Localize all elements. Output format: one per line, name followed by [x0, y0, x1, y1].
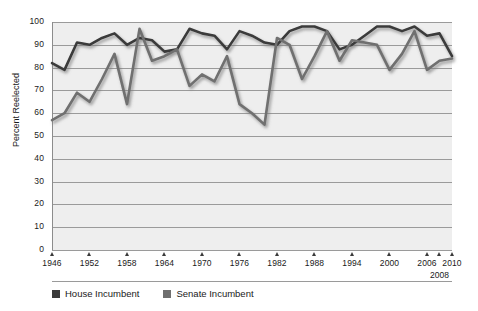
x-tick-1946: [50, 252, 54, 256]
x-tick-label-2008: 2008: [423, 270, 457, 280]
series-line-house-incumbent: [52, 27, 452, 70]
legend-item-house-incumbent[interactable]: House Incumbent: [52, 288, 139, 299]
x-tick-2010: [450, 252, 454, 256]
x-tick-1958: [125, 252, 129, 256]
legend-divider: [52, 281, 452, 282]
x-tick-label-1964: 1964: [148, 258, 182, 268]
x-tick-1964: [162, 252, 166, 256]
x-tick-label-1970: 1970: [185, 258, 219, 268]
x-tick-label-1982: 1982: [260, 258, 294, 268]
legend-item-senate-incumbent[interactable]: Senate Incumbent: [163, 288, 253, 299]
x-tick-2006: [425, 252, 429, 256]
x-tick-label-1976: 1976: [223, 258, 257, 268]
x-tick-1970: [200, 252, 204, 256]
series-line-senate-incumbent: [52, 29, 452, 125]
chart-legend: House IncumbentSenate Incumbent: [52, 288, 268, 299]
legend-label: House Incumbent: [65, 288, 139, 299]
x-tick-1976: [237, 252, 241, 256]
x-tick-label-1952: 1952: [73, 258, 107, 268]
x-tick-1994: [350, 252, 354, 256]
x-tick-2008: [437, 252, 441, 256]
x-tick-2000: [387, 252, 391, 256]
x-tick-label-1988: 1988: [298, 258, 332, 268]
x-tick-1952: [87, 252, 91, 256]
x-tick-label-1946: 1946: [35, 258, 69, 268]
x-tick-label-2000: 2000: [373, 258, 407, 268]
legend-swatch-icon: [163, 290, 171, 298]
x-tick-label-1994: 1994: [335, 258, 369, 268]
legend-label: Senate Incumbent: [176, 288, 253, 299]
chart-root: 0102030405060708090100 Percent Reelected…: [0, 0, 478, 311]
x-tick-label-1958: 1958: [110, 258, 144, 268]
x-tick-label-2010: 2010: [435, 258, 469, 268]
x-tick-1982: [275, 252, 279, 256]
x-tick-1988: [312, 252, 316, 256]
legend-swatch-icon: [52, 290, 60, 298]
